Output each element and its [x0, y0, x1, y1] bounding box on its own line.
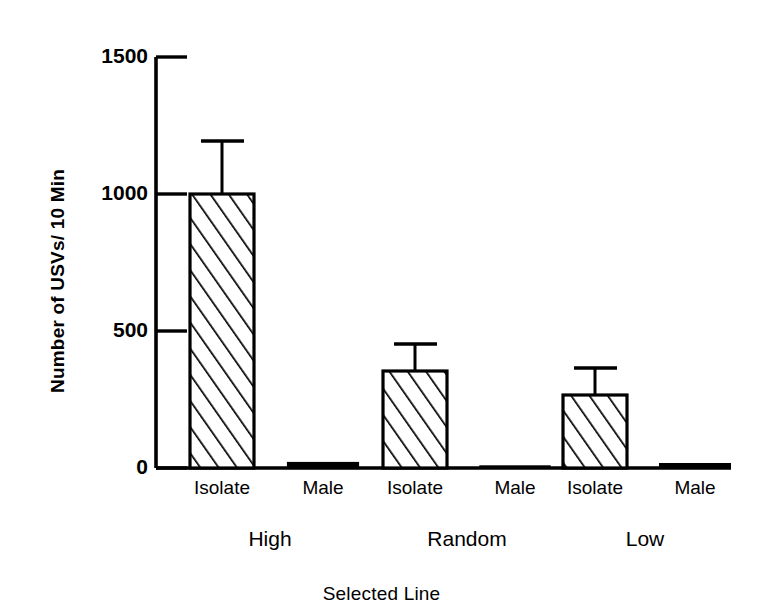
group-label-random: Random: [392, 527, 542, 551]
bar-chart-plot: [0, 0, 763, 615]
bar-label-low-male: Male: [645, 477, 745, 499]
y-tick-label-500: 500: [58, 318, 148, 342]
bar-label-high-isolate: Isolate: [162, 477, 282, 499]
group-label-low: Low: [580, 527, 710, 551]
bar-label-low-isolate: Isolate: [535, 477, 655, 499]
y-axis-title: Number of USVs/ 10 Min: [47, 151, 69, 411]
y-tick-label-1500: 1500: [58, 44, 148, 68]
bar-random-male: [480, 466, 550, 468]
bar-random-isolate: [383, 371, 447, 468]
bar-high-isolate: [190, 194, 254, 468]
bar-high-male: [288, 463, 358, 468]
group-label-high: High: [205, 527, 335, 551]
chart-figure: 1500 1000 500 0 Isolate Male Isolate Mal…: [0, 0, 763, 615]
y-tick-label-0: 0: [58, 455, 148, 479]
bar-label-random-isolate: Isolate: [355, 477, 475, 499]
y-tick-label-1000: 1000: [58, 181, 148, 205]
bar-low-isolate: [563, 395, 627, 468]
bar-low-male: [660, 464, 730, 468]
x-axis-title: Selected Line: [0, 583, 763, 605]
